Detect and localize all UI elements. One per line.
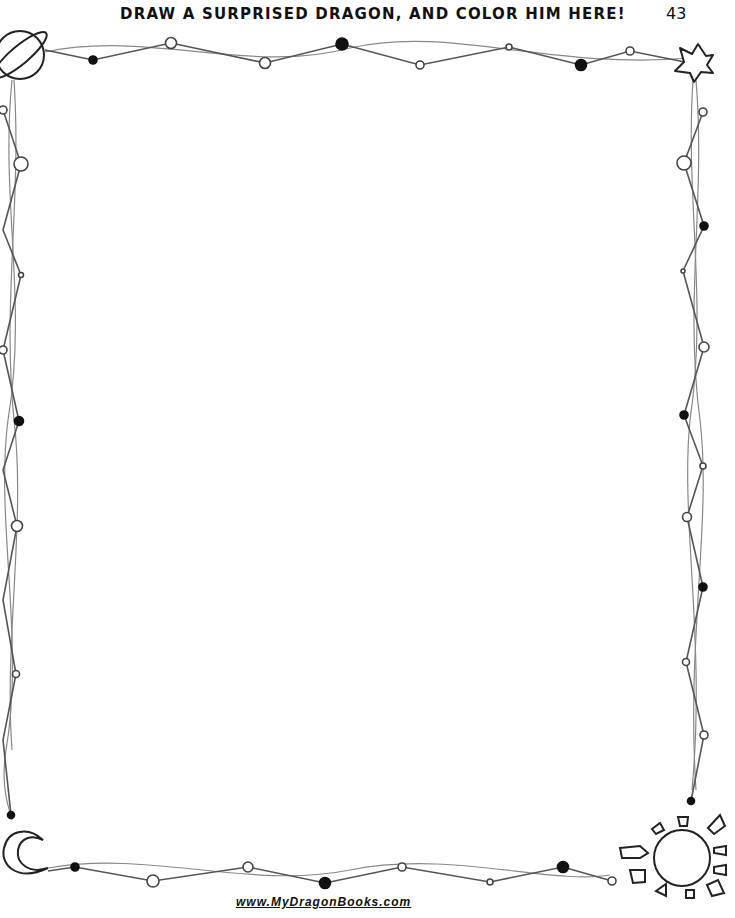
star-icon (675, 44, 713, 82)
planet-icon (0, 26, 52, 83)
right-border (677, 80, 709, 805)
left-border (0, 80, 28, 820)
top-border (45, 38, 690, 71)
crescent-moon-icon (3, 832, 48, 874)
decorative-border (0, 0, 735, 918)
bottom-border (48, 862, 616, 889)
sun-icon (620, 815, 726, 898)
website-link[interactable]: www.MyDragonBooks.com (236, 895, 411, 909)
